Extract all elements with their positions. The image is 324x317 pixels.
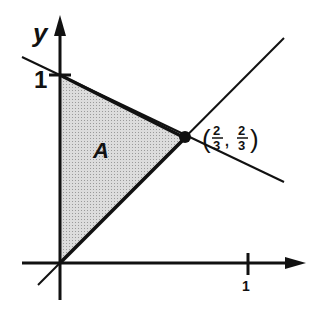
svg-text:2: 2 — [238, 123, 245, 138]
x-axis-arrow-icon — [285, 257, 306, 269]
region-a — [60, 75, 185, 263]
svg-text:2: 2 — [213, 123, 220, 138]
x-tick-label: 1 — [242, 278, 250, 294]
y-axis-arrow-icon — [54, 15, 66, 36]
y-axis-label: y — [31, 18, 49, 48]
svg-text:3: 3 — [213, 138, 220, 153]
region-label: A — [92, 138, 109, 163]
svg-text:3: 3 — [238, 138, 245, 153]
svg-text:): ) — [250, 124, 259, 154]
svg-text:(: ( — [202, 124, 211, 154]
point-label: ( 2 3 , 2 3 ) — [202, 123, 259, 154]
y-tick-label: 1 — [34, 66, 47, 93]
diagram-canvas: y 1 1 A ( 2 3 , 2 3 ) — [0, 0, 324, 317]
svg-text:,: , — [225, 133, 229, 149]
intersection-point — [179, 131, 191, 143]
